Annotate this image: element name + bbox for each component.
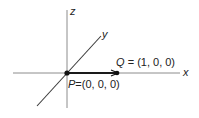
point-q-coords: (1, 0, 0) [137,56,175,68]
point-q [115,71,120,76]
point-q-eq: = [128,56,134,68]
point-q-name: Q [116,56,125,68]
point-q-label: Q = (1, 0, 0) [116,57,175,68]
y-axis [37,36,101,106]
point-p-coords: (0, 0, 0) [82,78,120,90]
z-axis-label: z [70,6,76,17]
y-axis-label: y [102,29,108,40]
x-axis-label: x [183,67,189,78]
point-p [64,70,69,75]
point-p-label: P=(0, 0, 0) [68,79,120,90]
